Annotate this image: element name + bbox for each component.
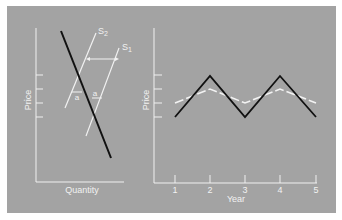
right-x-label: Year [227, 194, 245, 204]
shift-marker-label-1: a [75, 93, 80, 102]
shift-marker-label-2: a [93, 89, 98, 98]
svg-text:2: 2 [207, 185, 212, 195]
svg-text:5: 5 [313, 185, 318, 195]
svg-text:1: 1 [172, 185, 177, 195]
svg-text:4: 4 [277, 185, 282, 195]
figure: Price Quantity S2 S1 a a [0, 0, 342, 220]
left-x-label: Quantity [65, 185, 99, 195]
left-y-label: Price [23, 90, 33, 111]
right-y-label: Price [141, 90, 151, 111]
